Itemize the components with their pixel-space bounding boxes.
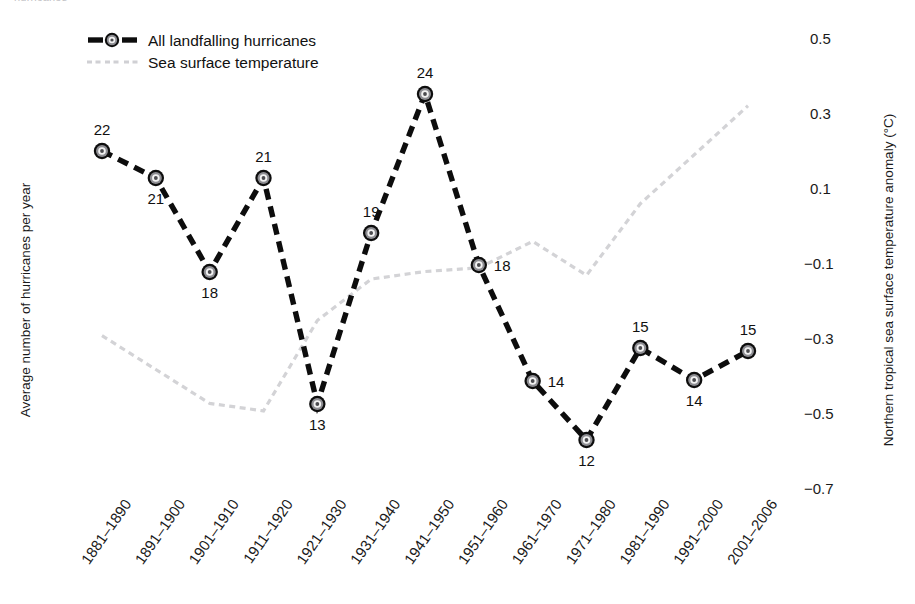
hurricane-point-value-label: 12 <box>578 452 595 469</box>
hurricane-point-value-label: 21 <box>147 190 164 207</box>
legend-hurricane-marker-icon <box>105 33 119 47</box>
right-tick-0: 0.5 <box>810 30 831 47</box>
hurricane-point-value-label: 18 <box>201 284 218 301</box>
x-tick-label: 1891–1900 <box>131 496 188 567</box>
hurricane-data-point[interactable] <box>740 343 756 359</box>
hurricane-data-point[interactable] <box>94 143 110 159</box>
hurricane-data-point[interactable] <box>201 264 217 280</box>
hurricane-point-value-label: 22 <box>94 121 111 138</box>
hurricane-data-point[interactable] <box>417 86 433 102</box>
hurricane-data-point[interactable] <box>255 170 271 186</box>
right-tick-4: −0.3 <box>804 330 834 347</box>
x-tick-label: 1951–1960 <box>454 496 511 567</box>
hurricane-data-point[interactable] <box>148 170 164 186</box>
hurricane-data-point[interactable] <box>686 372 702 388</box>
hurricane-data-point[interactable] <box>524 373 540 389</box>
hurricane-point-value-label: 14 <box>686 392 703 409</box>
x-tick-label: 2001–2006 <box>723 496 780 567</box>
x-tick-label: 1991–2000 <box>670 496 727 567</box>
hurricane-point-value-label: 13 <box>309 416 326 433</box>
x-tick-label: 1911–1920 <box>240 496 296 566</box>
chart-legend: All landfalling hurricanes Sea surface t… <box>87 32 319 71</box>
left-axis-title: Average number of hurricanes per year <box>18 182 33 417</box>
x-axis-tick-labels: 1881–18901891–19001901–19101911–19201921… <box>77 496 780 567</box>
right-tick-6: −0.7 <box>804 480 834 497</box>
legend-label-sst: Sea surface temperature <box>148 54 319 71</box>
hurricane-data-point[interactable] <box>632 340 648 356</box>
hurricane-point-value-label: 18 <box>494 257 511 274</box>
right-tick-5: −0.5 <box>804 405 834 422</box>
x-tick-label: 1901–1910 <box>185 496 242 567</box>
x-tick-label: 1931–1940 <box>347 496 404 567</box>
hurricane-point-value-label: 19 <box>363 203 380 220</box>
hurricane-point-value-label: 15 <box>632 318 649 335</box>
hurricane-point-value-label: 15 <box>740 321 757 338</box>
legend-item-hurricanes[interactable]: All landfalling hurricanes <box>88 32 316 49</box>
legend-label-hurricanes: All landfalling hurricanes <box>148 32 316 49</box>
landfalling-hurricanes-series: 22211821131924181412151415 <box>94 64 757 469</box>
x-tick-label: 1941–1950 <box>400 496 457 567</box>
hurricane-sst-line-chart: Average number of hurricanes per year No… <box>0 0 915 604</box>
hurricane-point-value-label: 24 <box>417 64 434 81</box>
hurricane-data-point[interactable] <box>471 257 487 273</box>
right-axis-title: Northern tropical sea surface temperatur… <box>881 114 896 447</box>
right-axis-ticks: 0.5 0.3 0.1 −0.1 −0.3 −0.5 −0.7 <box>804 30 834 497</box>
hurricane-data-point[interactable] <box>309 396 325 412</box>
x-tick-label: 1971–1980 <box>562 496 619 567</box>
hurricane-data-point[interactable] <box>363 225 379 241</box>
legend-item-sst[interactable]: Sea surface temperature <box>87 54 319 71</box>
hurricane-point-value-label: 21 <box>255 148 272 165</box>
right-tick-2: 0.1 <box>810 180 831 197</box>
right-tick-1: 0.3 <box>810 105 831 122</box>
hurricane-point-value-label: 14 <box>548 373 565 390</box>
x-tick-label: 1881–1890 <box>77 496 134 567</box>
x-tick-label: 1961–1970 <box>508 496 565 567</box>
hurricane-line-path <box>102 94 748 440</box>
x-tick-label: 1981–1990 <box>616 496 673 567</box>
hurricane-data-point[interactable] <box>578 432 594 448</box>
right-tick-3: −0.1 <box>804 255 834 272</box>
x-tick-label: 1921–1930 <box>293 496 350 567</box>
chart-page: hurricanes Average number of hurricanes … <box>0 0 915 604</box>
